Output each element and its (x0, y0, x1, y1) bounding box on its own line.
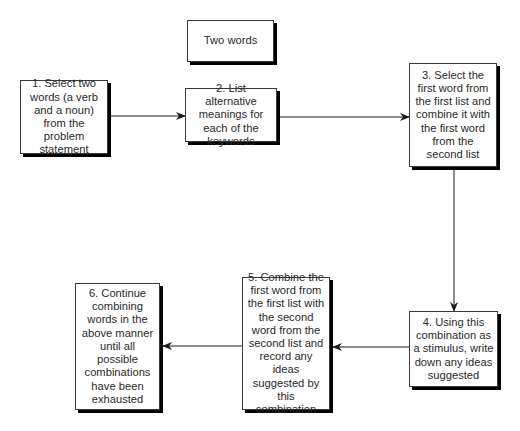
step-1-text: 1. Select two words (a verb and a noun) … (24, 77, 104, 156)
step-1-box: 1. Select two words (a verb and a noun) … (20, 80, 108, 154)
step-3-box: 3. Select the first word from the first … (409, 63, 497, 167)
step-6-text: 6. Continue combining words in the above… (79, 287, 156, 406)
step-4-text: 4. Using this combination as a stimulus,… (413, 316, 494, 382)
step-3-text: 3. Select the first word from the first … (413, 69, 493, 161)
step-5-text: 5. Combine the first word from the first… (246, 271, 326, 416)
step-4-box: 4. Using this combination as a stimulus,… (409, 311, 498, 387)
step-2-text: 2. List alternative meanings for each of… (189, 82, 273, 148)
label-box-two-words: Two words (187, 20, 274, 62)
step-2-box: 2. List alternative meanings for each of… (185, 88, 277, 142)
step-5-box: 5. Combine the first word from the first… (242, 277, 330, 410)
label-box-text: Two words (204, 34, 257, 47)
step-6-box: 6. Continue combining words in the above… (75, 283, 160, 410)
